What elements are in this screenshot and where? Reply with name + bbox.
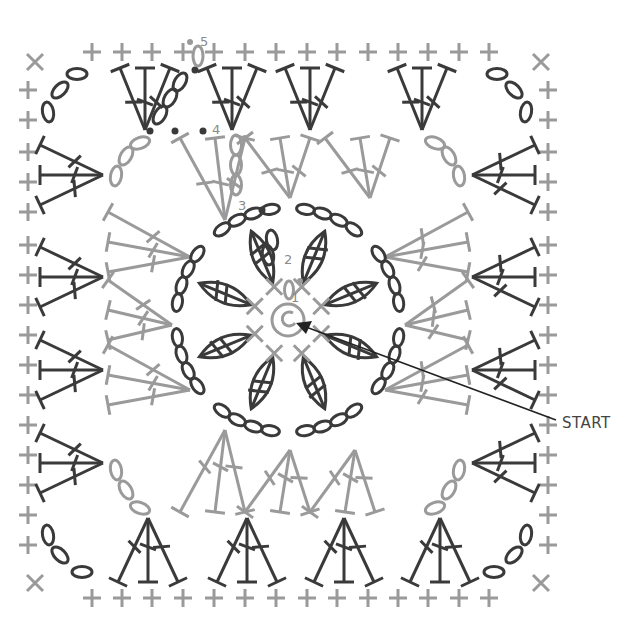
start-label: START bbox=[562, 414, 611, 432]
round-label-5: 5 bbox=[200, 34, 208, 49]
round-label-3: 3 bbox=[238, 198, 246, 213]
round-4-clusters bbox=[102, 128, 474, 518]
round-label-1: 1 bbox=[291, 290, 299, 305]
round-3-ring bbox=[171, 203, 405, 437]
round-label-2: 2 bbox=[284, 252, 292, 267]
round-1-center bbox=[247, 278, 330, 361]
crochet-chart: 12345 START bbox=[0, 0, 629, 631]
start-arrow-line bbox=[306, 327, 556, 420]
round-label-4: 4 bbox=[212, 122, 220, 137]
